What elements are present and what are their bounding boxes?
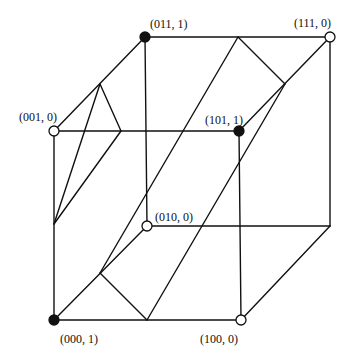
separating-line [54, 84, 100, 224]
open-vertex-dot [236, 315, 246, 325]
vertex-label-010: (010, 0) [155, 210, 193, 224]
filled-vertex-dot [234, 126, 244, 136]
filled-vertex-dot [140, 32, 150, 42]
vertex-label-111: (111, 0) [294, 16, 331, 30]
vertex-label-011: (011, 1) [150, 17, 188, 31]
cube-edge-100-110 [241, 226, 330, 320]
vertex-labels: (000, 1)(100, 0)(010, 0)(001, 0)(101, 1)… [19, 16, 331, 346]
vertex-label-000: (000, 1) [60, 332, 98, 346]
open-vertex-dot [49, 126, 59, 136]
separating-line [54, 131, 121, 224]
separating-line [100, 37, 238, 273]
vertex-label-100: (100, 0) [200, 332, 238, 346]
vertex-label-101: (101, 1) [205, 113, 243, 127]
separating-line [100, 273, 147, 320]
open-vertex-dot [142, 221, 152, 231]
filled-vertex-dot [49, 315, 59, 325]
vertex-label-001: (001, 0) [19, 110, 57, 124]
separating-line [238, 37, 285, 84]
separating-line [100, 84, 121, 131]
cube-edges [54, 37, 330, 320]
separating-lines [54, 37, 285, 320]
open-vertex-dot [325, 32, 335, 42]
hypercube-diagram: (000, 1)(100, 0)(010, 0)(001, 0)(101, 1)… [0, 0, 355, 357]
